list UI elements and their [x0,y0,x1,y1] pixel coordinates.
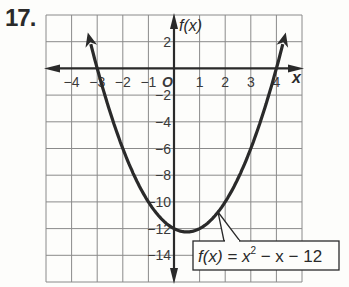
function-label-callout: f(x) = x2 − x − 12 [193,212,339,270]
y-tick-label: −14 [147,247,171,263]
tick-labels: −4−3−2−112342−2−4−6−8−10−12−14Of(x)x [64,17,302,263]
x-tick-label: 3 [247,74,255,90]
x-axis-label: x [291,69,302,86]
y-axis-label: f(x) [179,17,202,34]
callout-pointer [218,212,240,241]
parabola-path [91,44,283,232]
y-tick-label: 2 [163,34,171,50]
origin-label: O [162,74,173,90]
x-tick-label: −2 [115,74,131,90]
function-graph: −4−3−2−112342−2−4−6−8−10−12−14Of(x)x f(x… [0,0,349,287]
x-tick-label: 2 [221,74,229,90]
y-tick-label: −6 [155,141,171,157]
function-equation: f(x) = x2 − x − 12 [198,245,322,266]
x-tick-label: 1 [196,74,204,90]
x-tick-label: −4 [64,74,80,90]
y-tick-label: −4 [155,114,171,130]
y-tick-label: −8 [155,167,171,183]
